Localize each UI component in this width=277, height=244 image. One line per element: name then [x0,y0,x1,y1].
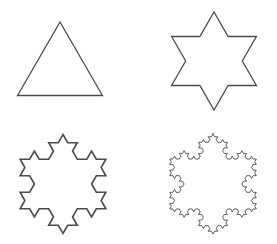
koch-snowflake-diagram [0,0,277,244]
